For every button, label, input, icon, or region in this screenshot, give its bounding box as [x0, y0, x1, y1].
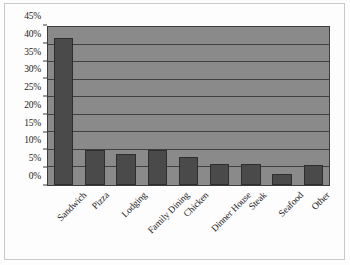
x-slot: Sandwich [47, 187, 78, 265]
bar-slot [173, 27, 204, 185]
bar-slot [110, 27, 141, 185]
bar-slot [48, 27, 79, 185]
bar-dinner-house[interactable] [210, 164, 229, 185]
x-axis: SandwichPizzaLodgingFamily DiningChicken… [47, 187, 330, 265]
x-slot: Lodging [110, 187, 141, 265]
y-tick-label: 30% [24, 64, 41, 74]
x-slot: Other [299, 187, 330, 265]
bar-slot [79, 27, 110, 185]
bar-family-dining[interactable] [148, 150, 167, 185]
bar-seafood[interactable] [272, 174, 291, 185]
bar-slot [298, 27, 329, 185]
chart-screenshot: 0%5%10%15%20%25%30%35%40%45% SandwichPiz… [0, 0, 350, 265]
figure-frame: 0%5%10%15%20%25%30%35%40%45% SandwichPiz… [4, 3, 345, 260]
x-slot: Steak [236, 187, 267, 265]
bar-slot [235, 27, 266, 185]
x-slot: Seafood [267, 187, 298, 265]
y-tick-label: 0% [29, 171, 41, 181]
y-tick-label: 15% [24, 118, 41, 128]
bars-layer [48, 27, 329, 185]
bar-slot [204, 27, 235, 185]
x-slot: Dinner House [204, 187, 235, 265]
x-tick-label: Pizza [90, 190, 111, 211]
x-tick-label: Steak [247, 190, 269, 212]
y-tick-label: 20% [24, 100, 41, 110]
x-slot: Pizza [78, 187, 109, 265]
bar-steak[interactable] [241, 164, 260, 185]
bar-other[interactable] [304, 165, 323, 185]
bar-lodging[interactable] [116, 154, 135, 185]
bar-chicken[interactable] [179, 157, 198, 185]
bar-sandwich[interactable] [54, 38, 73, 185]
y-tick-label: 45% [24, 11, 41, 21]
x-slot: Family Dining [141, 187, 172, 265]
bar-slot [142, 27, 173, 185]
y-tick-label: 10% [24, 135, 41, 145]
y-tick-label: 25% [24, 82, 41, 92]
plot-area [47, 26, 330, 186]
y-tick-label: 40% [24, 29, 41, 39]
y-axis: 0%5%10%15%20%25%30%35%40%45% [13, 26, 47, 186]
x-slot: Chicken [173, 187, 204, 265]
y-tick-label: 5% [29, 153, 41, 163]
bar-slot [267, 27, 298, 185]
bar-pizza[interactable] [85, 150, 104, 185]
y-tick-label: 35% [24, 47, 41, 57]
x-tick-label: Other [310, 190, 332, 212]
